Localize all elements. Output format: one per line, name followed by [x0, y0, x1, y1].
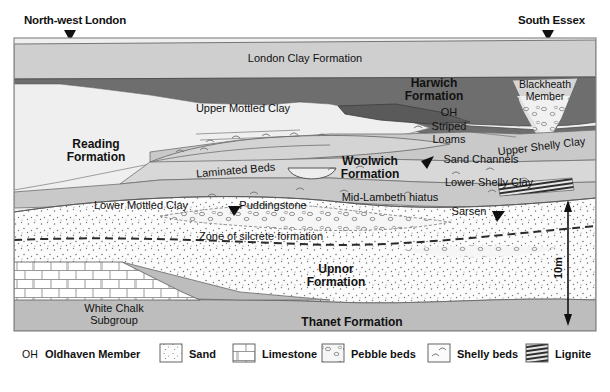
- label-blackheath-member-line2: Member: [526, 90, 565, 102]
- label-white-chalk-line1: White Chalk: [84, 302, 144, 314]
- label-puddingstone: Puddingstone: [239, 199, 306, 211]
- legend-label-oldhaven: Oldhaven Member: [45, 348, 141, 360]
- label-upper-mottled-clay: Upper Mottled Clay: [196, 102, 291, 114]
- location-label-nw-london: North-west London: [24, 14, 126, 26]
- label-oh-abbrev: OH: [441, 106, 458, 118]
- label-harwich-formation-line2: Formation: [405, 89, 464, 103]
- location-label-left: North-west London: [24, 14, 126, 41]
- legend-label-lignite: Lignite: [555, 348, 591, 360]
- cross-section-diagram: North-west London South Essex: [0, 0, 610, 392]
- label-white-chalk-line2: Subgroup: [90, 314, 138, 326]
- legend-label-sand: Sand: [189, 348, 216, 360]
- label-woolwich-formation-line1: Woolwich: [342, 154, 398, 168]
- legend-swatch-sand-icon: [160, 344, 182, 362]
- label-harwich-formation-line1: Harwich: [411, 76, 458, 90]
- legend-label-pebble-beds: Pebble beds: [351, 348, 416, 360]
- legend-swatch-pebble-icon: [322, 344, 344, 362]
- label-sand-channels: Sand Channels: [443, 153, 519, 165]
- label-upnor-formation-line2: Formation: [307, 275, 366, 289]
- legend-label-shelly-beds: Shelly beds: [457, 348, 518, 360]
- label-reading-formation-line2: Formation: [67, 150, 126, 164]
- label-striped-loams-line2: Loams: [432, 133, 466, 145]
- legend-swatch-limestone-icon: [233, 344, 255, 362]
- legend-swatch-lignite-icon: [526, 344, 548, 362]
- figure-root: North-west London South Essex: [0, 0, 610, 392]
- legend-oh-abbrev: OH: [22, 348, 38, 360]
- label-blackheath-member-line1: Blackheath: [519, 78, 571, 90]
- scale-bar-label: 10m: [552, 257, 564, 279]
- label-upnor-formation-line1: Upnor: [318, 262, 354, 276]
- label-sarsen: Sarsen: [452, 205, 487, 217]
- location-label-right: South Essex: [518, 14, 586, 41]
- label-striped-loams-line1: Striped: [432, 120, 467, 132]
- label-reading-formation-line1: Reading: [72, 137, 119, 151]
- label-lower-shelly-clay: Lower Shelly Clay: [445, 176, 534, 188]
- label-thanet-formation: Thanet Formation: [301, 315, 402, 329]
- label-mid-lambeth-hiatus: Mid-Lambeth hiatus: [342, 191, 439, 203]
- label-woolwich-formation-line2: Formation: [341, 167, 400, 181]
- location-label-south-essex: South Essex: [518, 14, 586, 26]
- label-zone-of-silcrete: Zone of silcrete formation: [199, 230, 323, 242]
- label-london-clay-formation: London Clay Formation: [248, 52, 362, 64]
- legend: OH Oldhaven Member Sand Limestone Pebble…: [22, 344, 591, 362]
- legend-label-limestone: Limestone: [262, 348, 317, 360]
- legend-swatch-shelly-icon: [428, 344, 450, 362]
- label-lower-mottled-clay: Lower Mottled Clay: [94, 199, 189, 211]
